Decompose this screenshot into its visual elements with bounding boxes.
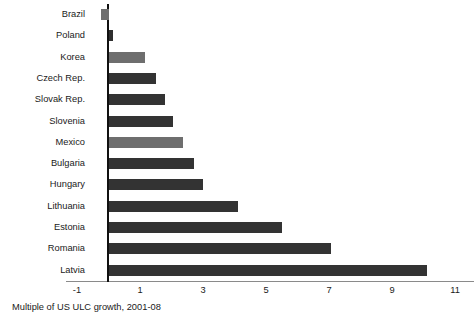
bar-estonia [109,222,282,233]
bar-row: Hungary [0,174,474,195]
x-tick-3: 3 [188,284,218,296]
plot-area: BrazilPolandKoreaCzech Rep.Slovak Rep.Sl… [0,0,474,283]
bar-row: Slovak Rep. [0,89,474,110]
bar-row: Brazil [0,4,474,25]
bar-row: Mexico [0,132,474,153]
x-tick-9: 9 [377,284,407,296]
bar-row: Estonia [0,217,474,238]
bar-hungary [109,179,204,190]
category-label-romania: Romania [0,238,85,259]
chart-caption: Multiple of US ULC growth, 2001-08 [12,302,161,312]
bar-row: Latvia [0,260,474,281]
bar-lithuania [109,201,238,212]
x-tick-7: 7 [314,284,344,296]
category-label-latvia: Latvia [0,260,85,281]
bar-row: Czech Rep. [0,68,474,89]
bar-row: Korea [0,47,474,68]
x-tick-11: 11 [440,284,470,296]
bar-row: Poland [0,25,474,46]
category-label-lithuania: Lithuania [0,196,85,217]
bar-slovak-rep [109,94,166,105]
bar-korea [109,52,145,63]
category-label-slovak-rep: Slovak Rep. [0,89,85,110]
category-label-estonia: Estonia [0,217,85,238]
bar-chart: BrazilPolandKoreaCzech Rep.Slovak Rep.Sl… [0,0,474,323]
x-axis-line [66,281,474,282]
bar-row: Bulgaria [0,153,474,174]
bar-bulgaria [109,158,194,169]
bar-row: Slovenia [0,111,474,132]
x-tick-1: 1 [125,284,155,296]
category-label-poland: Poland [0,25,85,46]
x-tick-5: 5 [251,284,281,296]
bar-latvia [109,265,427,276]
category-label-czech-rep: Czech Rep. [0,68,85,89]
category-label-bulgaria: Bulgaria [0,153,85,174]
bar-mexico [109,137,183,148]
bar-slovenia [109,116,174,127]
category-label-korea: Korea [0,47,85,68]
bar-poland [109,30,114,41]
category-label-mexico: Mexico [0,132,85,153]
category-label-hungary: Hungary [0,174,85,195]
bar-romania [109,243,331,254]
category-label-slovenia: Slovenia [0,111,85,132]
bar-czech-rep [109,73,156,84]
bar-row: Lithuania [0,196,474,217]
category-label-brazil: Brazil [0,4,85,25]
bar-brazil [101,9,109,20]
x-tick--1: -1 [62,284,92,296]
bar-row: Romania [0,238,474,259]
